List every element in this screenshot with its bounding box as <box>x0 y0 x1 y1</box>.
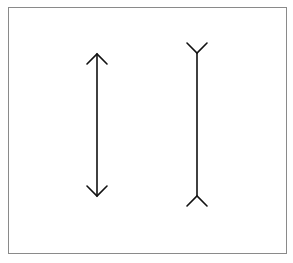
frame-border <box>9 8 287 254</box>
illusion-canvas <box>0 0 293 263</box>
left-figure-outward-arrows <box>87 54 107 196</box>
right-top-fin <box>187 43 207 53</box>
right-figure-inward-fins <box>187 43 207 206</box>
right-bottom-fin <box>187 196 207 206</box>
